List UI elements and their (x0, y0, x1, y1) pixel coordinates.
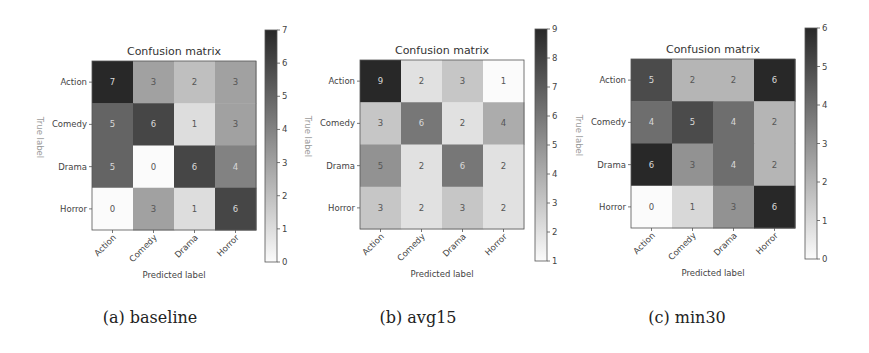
x-axis-label: Predicted label (410, 269, 473, 279)
x-tick-label: Comedy (395, 231, 427, 263)
cell-value-label: 2 (501, 161, 506, 171)
colorbar-tick-label: 4 (822, 100, 827, 110)
y-tick-label: Drama (597, 160, 626, 170)
cell-value-label: 1 (501, 76, 506, 86)
colorbar (805, 28, 817, 259)
subfigure-caption: (b) avg15 (380, 308, 457, 327)
colorbar-tick-label: 4 (552, 169, 557, 179)
cell-value-label: 2 (460, 118, 465, 128)
cell-value-label: 4 (649, 117, 654, 127)
confusion-matrix-panel-c: Confusion matrix5226454263420136ActionCo… (574, 23, 827, 327)
colorbar-tick-label: 7 (282, 25, 287, 35)
chart-title: Confusion matrix (395, 44, 490, 57)
cell-value-label: 3 (690, 160, 695, 170)
colorbar-tick-label: 0 (282, 257, 287, 267)
colorbar-tick-label: 2 (822, 177, 827, 187)
x-tick-label: Horror (754, 230, 780, 256)
y-tick-label: Comedy (52, 119, 87, 129)
cell-value-label: 1 (192, 119, 197, 129)
cell-value-label: 7 (110, 77, 115, 87)
cell-value-label: 3 (151, 204, 156, 214)
cell-value-label: 1 (192, 204, 197, 214)
cell-value-label: 5 (690, 117, 695, 127)
subfigure-caption: (c) min30 (648, 308, 725, 327)
x-tick-label: Comedy (666, 230, 698, 262)
y-axis-label: True label (303, 115, 313, 157)
x-tick-label: Drama (712, 230, 739, 257)
colorbar (535, 29, 547, 261)
y-tick-label: Action (328, 76, 355, 86)
colorbar-tick-label: 5 (282, 91, 287, 101)
cell-value-label: 4 (501, 118, 506, 128)
cell-value-label: 6 (772, 75, 777, 85)
cell-value-label: 3 (233, 119, 238, 129)
cell-value-label: 2 (419, 161, 424, 171)
colorbar-tick-label: 2 (552, 227, 557, 237)
colorbar-tick-label: 2 (282, 191, 287, 201)
colorbar-tick-label: 1 (282, 224, 287, 234)
x-tick-label: Comedy (127, 232, 159, 264)
cell-value-label: 2 (501, 203, 506, 213)
cell-value-label: 4 (233, 162, 238, 172)
colorbar-tick-label: 0 (822, 254, 827, 264)
cell-value-label: 0 (649, 202, 654, 212)
cell-value-label: 9 (378, 76, 383, 86)
cell-value-label: 6 (419, 118, 424, 128)
colorbar-tick-label: 1 (822, 216, 827, 226)
cell-value-label: 6 (192, 162, 197, 172)
y-axis-label: True label (35, 116, 45, 158)
y-tick-label: Horror (328, 203, 355, 213)
cell-value-label: 3 (460, 203, 465, 213)
cell-value-label: 3 (151, 77, 156, 87)
y-tick-label: Action (60, 77, 87, 87)
colorbar-tick-label: 5 (822, 62, 827, 72)
colorbar-tick-label: 1 (552, 256, 557, 266)
cell-value-label: 5 (110, 162, 115, 172)
colorbar-tick-label: 9 (552, 24, 557, 34)
cell-value-label: 2 (772, 160, 777, 170)
cell-value-label: 2 (192, 77, 197, 87)
cell-value-label: 2 (772, 117, 777, 127)
y-tick-label: Action (599, 75, 626, 85)
cell-value-label: 5 (378, 161, 383, 171)
colorbar-tick-label: 4 (282, 124, 287, 134)
cell-value-label: 6 (233, 204, 238, 214)
cell-value-label: 0 (151, 162, 156, 172)
x-tick-label: Action (631, 230, 657, 256)
x-tick-label: Action (92, 232, 118, 258)
y-tick-label: Drama (326, 161, 355, 171)
chart-title: Confusion matrix (127, 45, 222, 58)
colorbar-tick-label: 6 (282, 58, 287, 68)
colorbar-tick-label: 8 (552, 53, 557, 63)
colorbar-tick-label: 3 (552, 198, 557, 208)
colorbar-tick-label: 3 (282, 158, 287, 168)
chart-title: Confusion matrix (666, 43, 761, 56)
cell-value-label: 2 (419, 76, 424, 86)
cell-value-label: 0 (110, 204, 115, 214)
y-axis-label: True label (574, 114, 584, 156)
cell-value-label: 6 (772, 202, 777, 212)
x-axis-label: Predicted label (681, 268, 744, 278)
cell-value-label: 3 (378, 203, 383, 213)
y-tick-label: Horror (599, 202, 626, 212)
x-tick-label: Drama (441, 231, 468, 258)
cell-value-label: 3 (460, 76, 465, 86)
confusion-matrix-panel-a: Confusion matrix7323561350640316ActionCo… (35, 25, 287, 327)
y-tick-label: Comedy (591, 117, 626, 127)
colorbar-tick-label: 3 (822, 139, 827, 149)
y-tick-label: Drama (58, 162, 87, 172)
x-tick-label: Drama (173, 232, 200, 259)
cell-value-label: 5 (649, 75, 654, 85)
subfigure-caption: (a) baseline (103, 308, 198, 327)
colorbar (265, 30, 277, 262)
cell-value-label: 6 (151, 119, 156, 129)
cell-value-label: 4 (731, 117, 736, 127)
cell-value-label: 6 (649, 160, 654, 170)
cell-value-label: 3 (378, 118, 383, 128)
colorbar-tick-label: 6 (552, 111, 557, 121)
colorbar-tick-label: 7 (552, 82, 557, 92)
cell-value-label: 2 (690, 75, 695, 85)
colorbar-tick-label: 5 (552, 140, 557, 150)
cell-value-label: 3 (731, 202, 736, 212)
cell-value-label: 2 (419, 203, 424, 213)
